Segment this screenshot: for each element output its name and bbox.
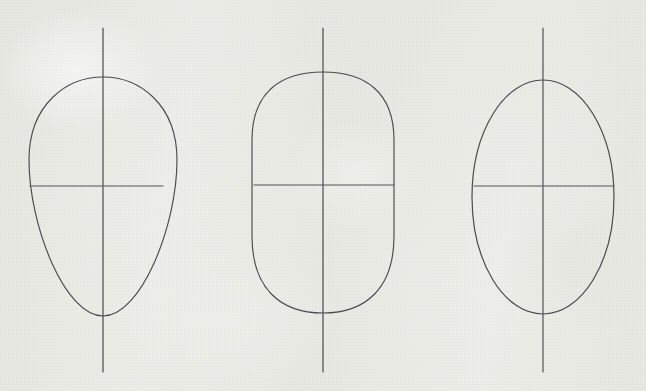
sketch-page: Oval / egg face shape Square / rounded-r… — [0, 0, 646, 391]
figure-2-square-rounded-face-shape — [252, 28, 394, 372]
figure-3-ellipse-oval-face-shape — [472, 28, 614, 372]
drawing-layer — [0, 0, 646, 391]
figure-1-oval-egg-face-shape — [29, 28, 177, 372]
